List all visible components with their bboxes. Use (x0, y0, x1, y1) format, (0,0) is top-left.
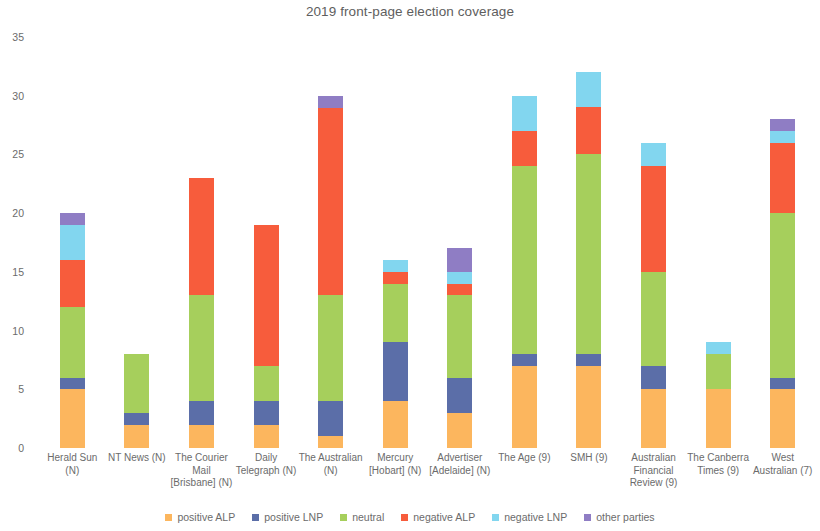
bar-segment[interactable] (512, 354, 537, 366)
bar-segment[interactable] (60, 307, 85, 377)
bar-segment[interactable] (60, 389, 85, 448)
bar-segment[interactable] (383, 342, 408, 401)
x-axis-tick-label: West Australian (7) (750, 452, 815, 477)
bar-segment[interactable] (318, 108, 343, 296)
chart-title: 2019 front-page election coverage (0, 4, 820, 19)
bar-segment[interactable] (124, 425, 149, 448)
legend-item[interactable]: positive LNP (252, 512, 323, 523)
y-axis-tick-label: 5 (18, 384, 24, 395)
bar-segment[interactable] (576, 354, 601, 366)
bar-group[interactable] (383, 37, 408, 448)
bar-segment[interactable] (124, 354, 149, 413)
y-axis-tick-label: 20 (12, 208, 24, 219)
bar-segment[interactable] (189, 295, 214, 401)
bar-group[interactable] (254, 37, 279, 448)
bar-stack (60, 213, 85, 448)
bar-stack (124, 354, 149, 448)
bar-segment[interactable] (641, 272, 666, 366)
legend-item[interactable]: positive ALP (165, 512, 235, 523)
bar-segment[interactable] (318, 295, 343, 401)
legend-swatch-icon (252, 514, 259, 521)
bar-segment[interactable] (383, 260, 408, 272)
bar-segment[interactable] (576, 107, 601, 154)
bar-group[interactable] (641, 37, 666, 448)
legend-swatch-icon (492, 514, 499, 521)
bar-segment[interactable] (254, 425, 279, 448)
bar-segment[interactable] (770, 119, 795, 131)
bar-segment[interactable] (318, 96, 343, 108)
legend-item[interactable]: other parties (584, 512, 654, 523)
bar-segment[interactable] (60, 225, 85, 260)
bar-stack (641, 143, 666, 448)
x-axis-tick-label: Herald Sun (N) (40, 452, 105, 477)
bar-segment[interactable] (447, 295, 472, 377)
bar-segment[interactable] (447, 284, 472, 296)
bar-segment[interactable] (254, 225, 279, 366)
x-axis-tick-label: Advertiser [Adelaide] (N) (428, 452, 493, 477)
plot-area (40, 37, 815, 448)
bar-segment[interactable] (512, 166, 537, 354)
bar-segment[interactable] (383, 272, 408, 284)
bar-segment[interactable] (770, 131, 795, 143)
bar-segment[interactable] (512, 131, 537, 166)
bar-segment[interactable] (447, 413, 472, 448)
bar-segment[interactable] (576, 72, 601, 107)
bar-segment[interactable] (447, 248, 472, 271)
bar-segment[interactable] (383, 284, 408, 343)
x-axis-tick-label: Mercury [Hobart] (N) (363, 452, 428, 477)
bar-segment[interactable] (770, 378, 795, 390)
bar-segment[interactable] (770, 389, 795, 448)
bar-segment[interactable] (189, 178, 214, 295)
bar-segment[interactable] (770, 213, 795, 377)
bar-segment[interactable] (254, 401, 279, 424)
bar-segment[interactable] (641, 166, 666, 272)
bar-group[interactable] (512, 37, 537, 448)
bar-group[interactable] (189, 37, 214, 448)
bar-segment[interactable] (447, 272, 472, 284)
bar-group[interactable] (124, 37, 149, 448)
bar-segment[interactable] (318, 436, 343, 448)
bar-stack (254, 225, 279, 448)
legend-swatch-icon (584, 514, 591, 521)
bar-segment[interactable] (512, 96, 537, 131)
bar-segment[interactable] (318, 401, 343, 436)
bar-group[interactable] (770, 37, 795, 448)
y-axis-tick-label: 10 (12, 325, 24, 336)
legend-swatch-icon (340, 514, 347, 521)
bar-segment[interactable] (641, 389, 666, 448)
bar-segment[interactable] (447, 378, 472, 413)
bar-group[interactable] (576, 37, 601, 448)
bar-stack (576, 72, 601, 448)
x-axis-tick-label: SMH (9) (557, 452, 622, 465)
bar-stack (189, 178, 214, 448)
y-axis: 05101520253035 (0, 37, 40, 448)
bar-group[interactable] (706, 37, 731, 448)
bar-segment[interactable] (576, 154, 601, 354)
bar-segment[interactable] (60, 213, 85, 225)
legend-item[interactable]: negative LNP (492, 512, 567, 523)
bar-segment[interactable] (576, 366, 601, 448)
bar-segment[interactable] (60, 260, 85, 307)
bar-segment[interactable] (641, 143, 666, 166)
bar-segment[interactable] (512, 366, 537, 448)
bar-segment[interactable] (60, 378, 85, 390)
bar-segment[interactable] (189, 401, 214, 424)
bar-group[interactable] (60, 37, 85, 448)
legend-item[interactable]: neutral (340, 512, 384, 523)
bar-segment[interactable] (189, 425, 214, 448)
legend-label: other parties (596, 512, 654, 523)
y-axis-tick-label: 35 (12, 32, 24, 43)
bar-segment[interactable] (770, 143, 795, 213)
bar-segment[interactable] (706, 342, 731, 354)
legend-item[interactable]: negative ALP (401, 512, 475, 523)
bar-segment[interactable] (706, 354, 731, 389)
bar-segment[interactable] (124, 413, 149, 425)
x-axis-tick-label: Daily Telegraph (N) (234, 452, 299, 477)
bar-segment[interactable] (383, 401, 408, 448)
bar-segment[interactable] (254, 366, 279, 401)
bar-group[interactable] (447, 37, 472, 448)
bar-segment[interactable] (641, 366, 666, 389)
bar-group[interactable] (318, 37, 343, 448)
bar-segment[interactable] (706, 389, 731, 448)
x-axis-tick-label: The Courier Mail [Brisbane] (N) (169, 452, 234, 490)
